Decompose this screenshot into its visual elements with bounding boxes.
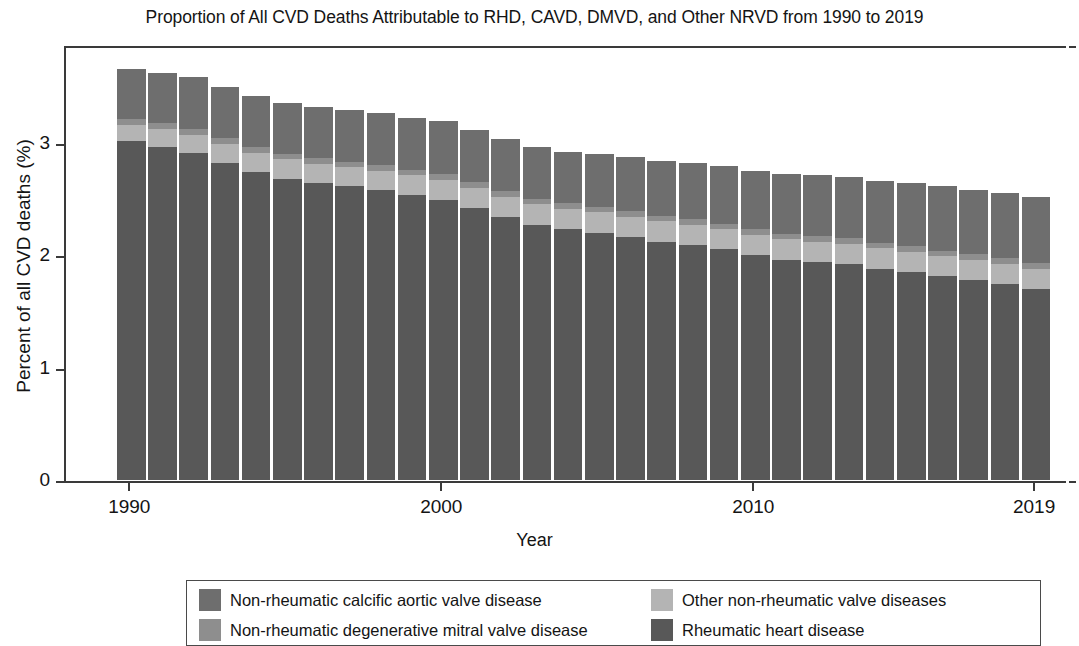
- bar-segment-rhd: [959, 280, 988, 480]
- bar-segment-other_nrvd: [959, 260, 988, 280]
- bar-segment-other_nrvd: [429, 180, 458, 200]
- bar-segment-other_nrvd: [273, 159, 302, 178]
- bar-segment-other_nrvd: [1022, 269, 1051, 289]
- bar-2003[interactable]: [523, 147, 552, 480]
- bar-segment-rhd: [117, 141, 146, 480]
- bar-1990[interactable]: [117, 69, 146, 480]
- bars-layer: [66, 48, 1076, 481]
- legend-swatch-cavd: [199, 589, 221, 611]
- bar-segment-rhd: [679, 245, 708, 480]
- bar-segment-rhd: [772, 260, 801, 481]
- bar-1996[interactable]: [304, 107, 333, 481]
- bar-2018[interactable]: [991, 193, 1020, 480]
- legend-item-dmvd[interactable]: Non-rheumatic degenerative mitral valve …: [199, 619, 651, 641]
- bar-segment-cavd: [491, 139, 520, 191]
- bar-segment-other_nrvd: [772, 239, 801, 259]
- bar-segment-other_nrvd: [304, 164, 333, 183]
- bar-2000[interactable]: [429, 121, 458, 480]
- bar-1995[interactable]: [273, 103, 302, 480]
- y-tick-mark: [56, 144, 64, 146]
- bar-segment-cavd: [1022, 197, 1051, 263]
- bar-2001[interactable]: [460, 130, 489, 480]
- bar-segment-other_nrvd: [398, 175, 427, 195]
- bar-segment-cavd: [679, 163, 708, 219]
- legend-item-cavd[interactable]: Non-rheumatic calcific aortic valve dise…: [199, 589, 651, 611]
- bar-segment-other_nrvd: [835, 244, 864, 264]
- x-tick-mark: [1033, 483, 1035, 491]
- bar-2006[interactable]: [616, 157, 645, 480]
- bar-segment-cavd: [273, 103, 302, 154]
- bar-segment-cavd: [117, 69, 146, 119]
- bar-1991[interactable]: [148, 73, 177, 480]
- bar-segment-other_nrvd: [491, 197, 520, 217]
- bar-segment-cavd: [803, 175, 832, 236]
- bar-segment-other_nrvd: [179, 135, 208, 153]
- bar-2014[interactable]: [866, 181, 895, 480]
- bar-segment-rhd: [523, 225, 552, 480]
- bar-segment-cavd: [211, 87, 240, 138]
- bar-segment-cavd: [741, 171, 770, 230]
- bar-segment-rhd: [585, 233, 614, 481]
- bar-segment-rhd: [928, 276, 957, 480]
- bar-segment-other_nrvd: [803, 242, 832, 262]
- legend-item-rhd[interactable]: Rheumatic heart disease: [651, 619, 1054, 641]
- y-tick-label: 0: [39, 469, 50, 491]
- bar-1997[interactable]: [335, 110, 364, 480]
- legend-swatch-rhd: [651, 619, 673, 641]
- bar-segment-rhd: [273, 179, 302, 481]
- bar-segment-other_nrvd: [523, 204, 552, 224]
- bar-segment-cavd: [866, 181, 895, 243]
- bar-2010[interactable]: [741, 171, 770, 480]
- bar-2005[interactable]: [585, 154, 614, 480]
- bar-2016[interactable]: [928, 186, 957, 480]
- bar-segment-rhd: [335, 186, 364, 480]
- bar-1999[interactable]: [398, 118, 427, 480]
- bar-segment-rhd: [1022, 289, 1051, 480]
- chart-legend: Non-rheumatic calcific aortic valve dise…: [186, 580, 1041, 646]
- bar-segment-cavd: [304, 107, 333, 159]
- x-tick-mark: [752, 483, 754, 491]
- bar-segment-rhd: [647, 242, 676, 481]
- bar-segment-other_nrvd: [741, 235, 770, 255]
- bar-segment-rhd: [710, 249, 739, 480]
- bar-1994[interactable]: [242, 96, 271, 480]
- bar-2011[interactable]: [772, 174, 801, 480]
- bar-1998[interactable]: [367, 113, 396, 480]
- bar-segment-rhd: [491, 217, 520, 480]
- bar-2007[interactable]: [647, 161, 676, 481]
- bar-segment-other_nrvd: [866, 248, 895, 268]
- bar-segment-rhd: [991, 284, 1020, 480]
- bar-2012[interactable]: [803, 175, 832, 480]
- x-axis-title: Year: [0, 530, 1069, 551]
- bar-segment-rhd: [367, 190, 396, 480]
- bar-segment-cavd: [398, 118, 427, 170]
- x-tick-label: 1990: [84, 496, 174, 518]
- bar-segment-cavd: [179, 77, 208, 129]
- legend-item-other_nrvd[interactable]: Other non-rheumatic valve diseases: [651, 589, 1054, 611]
- y-tick-mark: [56, 369, 64, 371]
- bar-2004[interactable]: [554, 152, 583, 481]
- x-tick-label: 2010: [708, 496, 798, 518]
- bar-segment-rhd: [398, 195, 427, 480]
- bar-2019[interactable]: [1022, 197, 1051, 481]
- bar-2013[interactable]: [835, 177, 864, 480]
- x-tick-mark: [128, 483, 130, 491]
- bar-2015[interactable]: [897, 183, 926, 480]
- bar-segment-other_nrvd: [117, 125, 146, 142]
- bar-segment-cavd: [897, 183, 926, 246]
- bar-1992[interactable]: [179, 77, 208, 480]
- bar-segment-rhd: [429, 200, 458, 480]
- bar-segment-other_nrvd: [585, 212, 614, 232]
- bar-2009[interactable]: [710, 166, 739, 480]
- bar-2008[interactable]: [679, 163, 708, 480]
- bar-segment-other_nrvd: [367, 171, 396, 190]
- bar-2017[interactable]: [959, 190, 988, 480]
- bar-segment-cavd: [554, 152, 583, 204]
- bar-segment-rhd: [304, 183, 333, 480]
- bar-2002[interactable]: [491, 139, 520, 480]
- legend-label: Non-rheumatic degenerative mitral valve …: [230, 621, 588, 640]
- bar-1993[interactable]: [211, 87, 240, 480]
- bar-segment-cavd: [991, 193, 1020, 258]
- page-title: Proportion of All CVD Deaths Attributabl…: [0, 7, 1069, 28]
